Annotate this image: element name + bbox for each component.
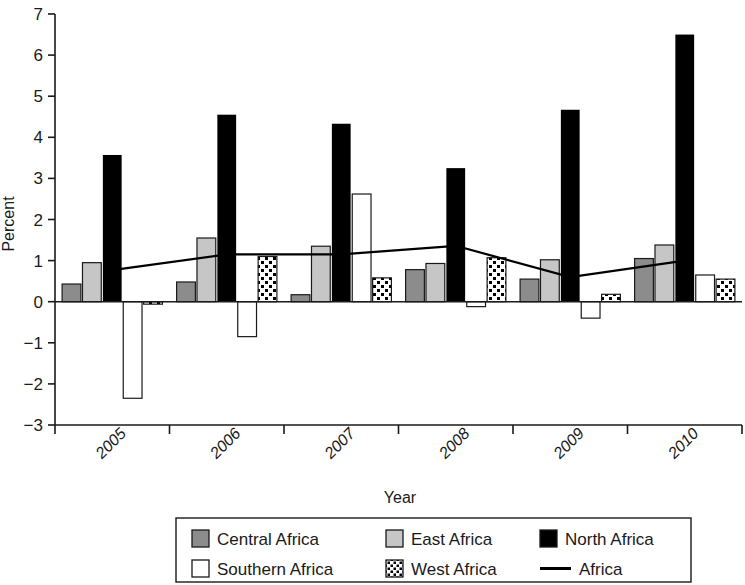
bar-southern-africa-2007 bbox=[352, 194, 371, 302]
legend-swatch-north-africa bbox=[540, 530, 557, 547]
bar-southern-africa-2006 bbox=[238, 302, 257, 337]
y-tick-label: 0 bbox=[34, 293, 43, 312]
bar-west-africa-2009 bbox=[602, 294, 621, 301]
legend-label-southern-africa: Southern Africa bbox=[217, 560, 334, 579]
bar-north-africa-2006 bbox=[217, 115, 236, 302]
bar-west-africa-2006 bbox=[258, 256, 277, 301]
bar-north-africa-2009 bbox=[561, 110, 580, 302]
y-tick-label: −1 bbox=[24, 334, 43, 353]
chart-legend: Central AfricaEast AfricaNorth AfricaSou… bbox=[176, 518, 691, 582]
y-tick-label: 2 bbox=[34, 211, 43, 230]
bar-east-africa-2006 bbox=[197, 238, 216, 302]
bar-chart-canvas: 76543210−1−2−3 200520062007200820092010 … bbox=[0, 0, 745, 585]
bar-central-africa-2008 bbox=[406, 270, 425, 302]
legend-swatch-southern-africa bbox=[192, 560, 209, 577]
y-tick-label: −2 bbox=[24, 375, 43, 394]
legend-label-west-africa: West Africa bbox=[411, 560, 497, 579]
y-tick-label: 7 bbox=[34, 5, 43, 24]
legend-label-east-africa: East Africa bbox=[411, 530, 493, 549]
legend-label-north-africa: North Africa bbox=[565, 530, 654, 549]
bar-central-africa-2007 bbox=[291, 295, 310, 302]
bar-southern-africa-2005 bbox=[123, 302, 142, 399]
bar-central-africa-2009 bbox=[520, 279, 539, 302]
bar-southern-africa-2010 bbox=[696, 275, 715, 302]
y-tick-label: 6 bbox=[34, 46, 43, 65]
bar-east-africa-2005 bbox=[82, 263, 101, 302]
y-tick-label: 3 bbox=[34, 169, 43, 188]
bar-central-africa-2006 bbox=[177, 282, 196, 302]
bar-north-africa-2008 bbox=[446, 168, 465, 302]
bar-southern-africa-2009 bbox=[581, 302, 600, 318]
legend-label-central-africa: Central Africa bbox=[217, 530, 320, 549]
bar-east-africa-2010 bbox=[655, 245, 674, 302]
y-tick-label: 5 bbox=[34, 87, 43, 106]
y-tick-label: 4 bbox=[34, 128, 43, 147]
bar-west-africa-2007 bbox=[373, 278, 392, 302]
legend-label-africa: Africa bbox=[579, 560, 623, 579]
y-axis-title: Percent bbox=[0, 196, 17, 252]
legend-swatch-west-africa bbox=[386, 560, 403, 577]
y-tick-label: 1 bbox=[34, 252, 43, 271]
bar-north-africa-2005 bbox=[103, 155, 122, 302]
bar-north-africa-2007 bbox=[332, 124, 351, 302]
bar-west-africa-2008 bbox=[487, 258, 506, 302]
bar-central-africa-2005 bbox=[62, 284, 81, 302]
bar-east-africa-2008 bbox=[426, 263, 445, 301]
legend-swatch-central-africa bbox=[192, 530, 209, 547]
bar-east-africa-2009 bbox=[540, 260, 559, 302]
chart-figure: 76543210−1−2−3 200520062007200820092010 … bbox=[0, 0, 745, 585]
bar-west-africa-2010 bbox=[716, 279, 735, 302]
x-axis-title: Year bbox=[384, 489, 417, 506]
legend-swatch-east-africa bbox=[386, 530, 403, 547]
y-tick-label: −3 bbox=[24, 416, 43, 435]
